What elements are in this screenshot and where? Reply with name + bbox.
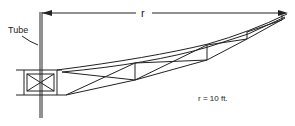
truss-diagram: r Tube r = 10 ft. <box>0 0 295 126</box>
radius-dimension-arrow <box>42 10 288 16</box>
arrow-left-head-icon <box>42 10 52 16</box>
arrow-right-head-icon <box>278 10 288 16</box>
radius-value-label: r = 10 ft. <box>198 94 228 103</box>
tube-label: Tube <box>8 25 28 35</box>
tube-leader-line <box>22 36 38 45</box>
tube <box>40 12 42 118</box>
truss-arm <box>57 14 287 95</box>
hub-box <box>16 70 66 95</box>
radius-symbol: r <box>141 7 145 19</box>
